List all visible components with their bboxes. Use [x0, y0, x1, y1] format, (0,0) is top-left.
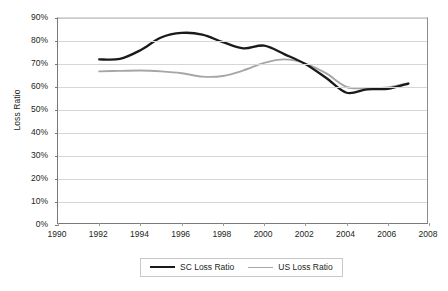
x-tick-label: 1994: [119, 230, 159, 239]
loss-ratio-line-chart: Loss Ratio 90%80%70%60%50%40%30%20%10%0%…: [0, 0, 448, 291]
series-layer: [58, 18, 429, 225]
legend-label-sc: SC Loss Ratio: [180, 263, 234, 272]
legend-item-sc-loss-ratio[interactable]: SC Loss Ratio: [150, 263, 234, 272]
y-tick-mark: [55, 41, 58, 42]
y-axis-tick-labels: 90%80%70%60%50%40%30%20%10%0%: [0, 0, 52, 291]
x-tick-mark: [99, 223, 100, 226]
x-tick-mark: [58, 223, 59, 226]
y-tick-mark: [55, 110, 58, 111]
plot-area: [57, 17, 428, 224]
gridline: [58, 156, 427, 157]
legend-item-us-loss-ratio[interactable]: US Loss Ratio: [248, 263, 332, 272]
y-tick-label: 30%: [0, 151, 48, 160]
x-tick-mark: [140, 223, 141, 226]
gridline: [58, 110, 427, 111]
y-tick-mark: [55, 202, 58, 203]
x-tick-label: 2000: [243, 230, 283, 239]
x-tick-mark: [305, 223, 306, 226]
y-tick-mark: [55, 156, 58, 157]
gridline: [58, 87, 427, 88]
line-swatch-gray-icon: [248, 267, 273, 268]
gridline: [58, 18, 427, 19]
gridline: [58, 133, 427, 134]
y-tick-mark: [55, 18, 58, 19]
x-tick-mark: [347, 223, 348, 226]
y-tick-label: 50%: [0, 105, 48, 114]
line-swatch-black-icon: [150, 266, 175, 268]
gridline: [58, 179, 427, 180]
x-tick-label: 1990: [37, 230, 77, 239]
y-tick-label: 70%: [0, 59, 48, 68]
x-tick-label: 2004: [326, 230, 366, 239]
y-tick-label: 10%: [0, 197, 48, 206]
x-tick-mark: [388, 223, 389, 226]
x-tick-mark: [429, 223, 430, 226]
y-tick-mark: [55, 133, 58, 134]
gridline: [58, 202, 427, 203]
gridline: [58, 41, 427, 42]
x-tick-label: 2002: [284, 230, 324, 239]
legend-label-us: US Loss Ratio: [278, 263, 332, 272]
y-tick-mark: [55, 64, 58, 65]
y-tick-label: 40%: [0, 128, 48, 137]
x-tick-label: 2008: [408, 230, 448, 239]
x-tick-mark: [264, 223, 265, 226]
y-tick-label: 60%: [0, 82, 48, 91]
y-tick-label: 0%: [0, 220, 48, 229]
x-tick-mark: [182, 223, 183, 226]
x-tick-mark: [223, 223, 224, 226]
x-tick-label: 1992: [78, 230, 118, 239]
x-tick-label: 2006: [367, 230, 407, 239]
chart-legend: SC Loss Ratio US Loss Ratio: [140, 258, 343, 277]
y-tick-label: 90%: [0, 13, 48, 22]
gridline: [58, 64, 427, 65]
y-tick-label: 20%: [0, 174, 48, 183]
x-tick-label: 1998: [202, 230, 242, 239]
x-tick-label: 1996: [161, 230, 201, 239]
y-tick-mark: [55, 179, 58, 180]
y-tick-label: 80%: [0, 36, 48, 45]
y-tick-mark: [55, 87, 58, 88]
